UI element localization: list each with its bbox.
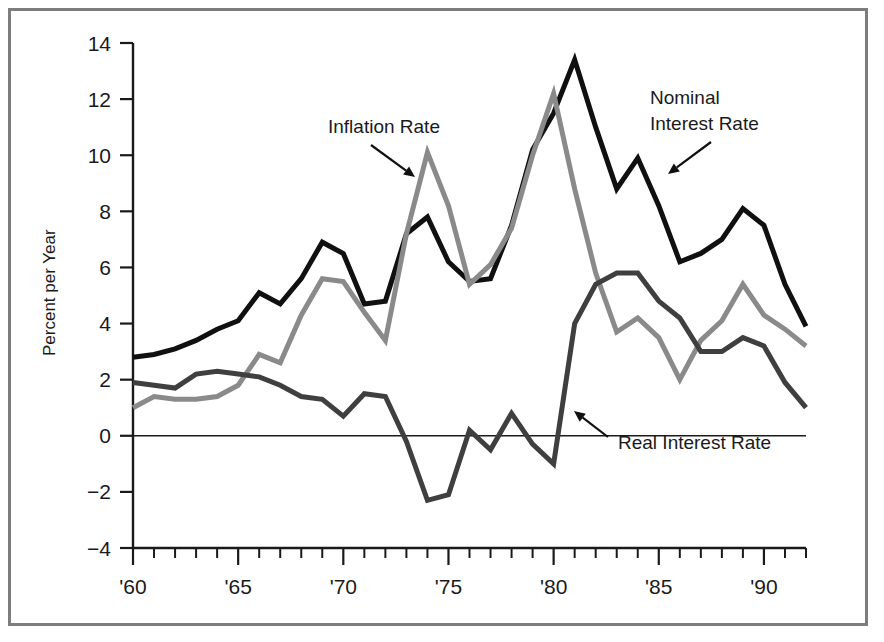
annotation-arrow xyxy=(371,145,415,177)
y-axis-tick-labels: 14121086420−2−4 xyxy=(87,32,111,560)
arrow-shaft xyxy=(583,418,608,437)
x-axis-minor-ticks xyxy=(154,548,806,558)
arrow-head xyxy=(574,411,586,422)
annotation-arrow xyxy=(668,142,711,174)
annotation-label: Real Interest Rate xyxy=(618,432,771,453)
y-tick-label: 2 xyxy=(99,368,111,391)
x-axis-major-ticks xyxy=(133,548,764,565)
annotation-arrow xyxy=(574,411,608,437)
y-tick-label: −2 xyxy=(87,480,111,503)
line-chart: 14121086420−2−4 '60'65'70'75'80'85'90 Pe… xyxy=(11,11,865,623)
chart-page: 14121086420−2−4 '60'65'70'75'80'85'90 Pe… xyxy=(0,0,884,642)
y-axis-title: Percent per Year xyxy=(40,229,59,356)
y-tick-label: 14 xyxy=(88,32,112,55)
y-tick-label: 8 xyxy=(99,200,111,223)
x-tick-label: '70 xyxy=(330,575,357,598)
y-tick-label: 10 xyxy=(88,144,111,167)
arrow-shaft xyxy=(371,145,406,171)
y-axis-ticks xyxy=(120,43,133,548)
x-tick-label: '90 xyxy=(750,575,777,598)
x-tick-label: '85 xyxy=(645,575,672,598)
y-tick-label: −4 xyxy=(87,537,111,560)
x-axis-tick-labels: '60'65'70'75'80'85'90 xyxy=(119,575,777,598)
y-tick-label: 6 xyxy=(99,256,111,279)
annotation-label: Interest Rate xyxy=(650,113,759,134)
y-tick-label: 12 xyxy=(88,88,111,111)
x-tick-label: '75 xyxy=(435,575,462,598)
real-interest-rate-annotation: Real Interest Rate xyxy=(574,411,771,453)
figure-frame: 14121086420−2−4 '60'65'70'75'80'85'90 Pe… xyxy=(8,8,868,626)
arrow-head xyxy=(668,163,680,174)
y-tick-label: 4 xyxy=(99,312,111,335)
annotation-label: Nominal xyxy=(650,87,720,108)
x-tick-label: '80 xyxy=(540,575,567,598)
annotation-label: Inflation Rate xyxy=(328,116,440,137)
y-tick-label: 0 xyxy=(99,424,111,447)
nominal-interest-rate-annotation: NominalInterest Rate xyxy=(650,87,759,174)
x-tick-label: '65 xyxy=(224,575,251,598)
arrow-head xyxy=(403,166,415,177)
x-tick-label: '60 xyxy=(119,575,146,598)
arrow-shaft xyxy=(677,142,711,167)
